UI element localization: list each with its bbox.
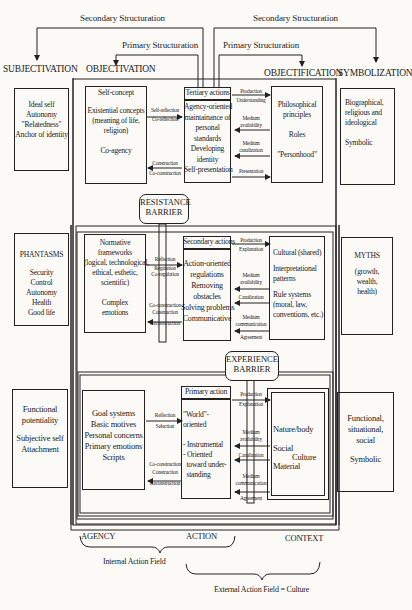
- subject-text-row2: PHANTASMS Security Control Autonomy Heal…: [14, 250, 69, 318]
- symbol-text-row3: Functional, situational, social Symbolic: [337, 413, 394, 465]
- objectification-header: OBJECTIFICATION: [264, 68, 342, 78]
- text-line: Action-oriented: [181, 258, 233, 269]
- text-line: Removing: [181, 280, 233, 291]
- agency-text-row3: Goal systems Basic motives Personal conc…: [81, 408, 146, 463]
- action-title-row2: Secondary actions: [183, 237, 231, 247]
- text-line: canalization: [233, 147, 269, 154]
- text-line: Agreement: [233, 334, 269, 341]
- text-line: Normative: [84, 238, 146, 248]
- context-nature-body: Nature/body: [273, 424, 313, 435]
- text-line: Co-construction: [147, 302, 183, 309]
- text-line: Control: [14, 278, 69, 288]
- text-line: standing: [183, 470, 231, 480]
- text-line: regulations: [181, 269, 233, 280]
- resistance-barrier: RESISTANCE BARRIER: [139, 194, 189, 224]
- text-line: Co-regulation: [147, 271, 183, 278]
- objectivation-header: OBJECTIVATION: [86, 64, 156, 74]
- text-line: Self-presentation: [184, 165, 231, 176]
- text-line: scientific): [84, 278, 146, 288]
- text-line: Existential concepts: [85, 106, 147, 116]
- text-line: patterns: [273, 274, 325, 284]
- text-line: Production: [233, 237, 269, 244]
- text-line: situational,: [337, 424, 394, 435]
- context-text-row1: Philosophical principles Roles "Personho…: [271, 100, 323, 160]
- text-line: Interpretational: [273, 264, 325, 274]
- primary-structuration-right-label: Primary Structuration: [223, 40, 299, 50]
- text-line: Canalization: [233, 294, 269, 301]
- text-line: frameworks: [84, 248, 146, 258]
- construction-label: Construction Co-construction: [148, 160, 182, 176]
- agency-text-row1: Self-concept Existential concepts (meani…: [85, 88, 147, 156]
- text-line: EXPERIENCE: [226, 354, 278, 364]
- text-line: (logical, technological,: [84, 258, 146, 268]
- text-line: Self-reflection: [148, 107, 182, 114]
- canalization-label-row2: Canalization: [233, 294, 269, 301]
- text-line: Autonomy: [14, 288, 69, 298]
- symbolization-header: SYMBOLIZATION: [338, 68, 412, 78]
- reflection-selection-label: Reflection Selection: [147, 412, 183, 429]
- text-line: Explanation: [233, 246, 269, 253]
- coconstruction-reconstruction-label: Co-construction Construction Reconstruct…: [147, 302, 183, 327]
- text-line: availability: [233, 122, 269, 129]
- context-text-row2: Cultural (shared) Interpretational patte…: [269, 248, 325, 320]
- text-line: BARRIER: [226, 364, 278, 374]
- text-line: Solving problems: [181, 302, 233, 313]
- text-line: Canalization: [233, 452, 269, 459]
- text-line: Agreement: [233, 495, 269, 502]
- coconstruction-reconstruction-label-row3: Co-construction Construction Reconstruct…: [147, 461, 183, 487]
- subject-text-row3: Functional potentiality Subjective self …: [12, 404, 68, 455]
- experience-barrier: EXPERIENCE BARRIER: [225, 351, 279, 381]
- action-text-row3: "World"- oriented - Instrumental - Orien…: [183, 410, 231, 480]
- text-line: Explanation: [233, 401, 269, 408]
- canalization-label-row3: Canalization: [233, 452, 269, 459]
- text-line: "Relatedness": [14, 120, 69, 130]
- text-line: Primary emotions: [81, 441, 146, 452]
- text-line: Co-agency: [85, 146, 147, 156]
- text-line: Co-construction: [147, 461, 183, 468]
- text-line: - Oriented: [183, 450, 231, 460]
- production-explanation-label-row3: Production Explanation: [233, 391, 269, 407]
- text-line: BARRIER: [140, 207, 188, 217]
- phantasms-label: PHANTASMS: [14, 250, 69, 260]
- context-material: Material: [273, 461, 300, 472]
- text-line: Agency-oriented: [184, 102, 231, 113]
- agreement-label-row3: Agreement: [233, 495, 269, 502]
- text-line: Construction: [148, 160, 182, 167]
- text-line: (moral, law,: [273, 300, 325, 310]
- text-line: Goal systems: [81, 408, 146, 419]
- external-action-field-label: External Action Field = Culture: [214, 585, 309, 594]
- medium-availability-label-row3: Medium availability: [233, 429, 269, 442]
- text-line: Production: [233, 391, 269, 398]
- action-footer-label: ACTION: [186, 531, 217, 541]
- text-line: conventions, etc.): [273, 310, 325, 320]
- text-line: (growth,: [341, 267, 393, 277]
- text-line: (meaning of life,: [85, 116, 147, 126]
- text-line: communication: [233, 321, 269, 328]
- text-line: Health: [14, 298, 69, 308]
- reflection-regulation-label: Reflection Regulation Co-regulation: [147, 256, 183, 278]
- text-line: Scripts: [81, 452, 146, 463]
- text-line: Complex: [84, 298, 146, 308]
- text-line: Presentation: [233, 168, 269, 175]
- secondary-structuration-left-label: Secondary Structuration: [80, 13, 165, 23]
- text-line: standards: [184, 134, 231, 145]
- text-line: potentiality: [12, 415, 68, 426]
- symbol-text-row1: Biographical, religious and ideological …: [340, 98, 395, 148]
- text-line: emotions: [84, 308, 146, 318]
- text-line: Reconstruction: [147, 320, 183, 327]
- text-line: availability: [233, 436, 269, 443]
- subjectivation-header: SUBJECTIVATION: [3, 64, 78, 74]
- agency-footer-label: AGENCY: [81, 531, 115, 541]
- text-line: ideological: [345, 118, 395, 128]
- text-line: Functional: [12, 404, 68, 415]
- production-explanation-label-row2: Production Explanation: [233, 237, 269, 252]
- action-text-row1: Agency-oriented maintainance of personal…: [184, 102, 231, 176]
- action-text-row2: Action-oriented regulations Removing obs…: [181, 258, 233, 324]
- context-social: Social: [273, 443, 293, 454]
- text-line: Attachment: [12, 444, 68, 455]
- text-line: social: [337, 435, 394, 446]
- agreement-label-row2: Agreement: [233, 334, 269, 341]
- text-line: Anchor of identity: [14, 130, 69, 140]
- text-line: Good life: [14, 308, 69, 318]
- text-line: Roles: [271, 130, 323, 140]
